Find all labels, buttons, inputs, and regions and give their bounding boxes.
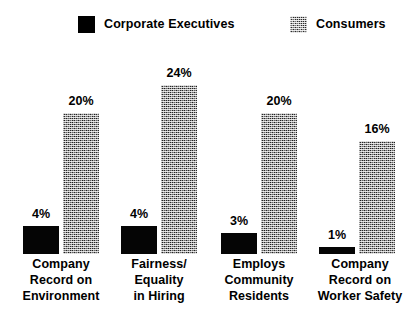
bar-group-fairness-equality-in-hiring: 4% 24% — [112, 52, 206, 254]
bar-value-executives-1: 4% — [130, 208, 148, 221]
bar-consumers-1 — [161, 85, 197, 254]
bar-value-executives-2: 3% — [230, 215, 248, 228]
plot-area: 4% 20% 4% 24% 3% — [0, 52, 416, 254]
chart-legend: Corporate Executives Consumers — [0, 14, 416, 38]
bar-value-executives-0: 4% — [32, 208, 50, 221]
bar-group-employs-community-residents: 3% 20% — [212, 52, 306, 254]
bar-value-consumers-0: 20% — [68, 95, 93, 108]
bar-executives-3 — [319, 247, 355, 254]
category-label-1: Fairness/ Equality in Hiring — [112, 256, 206, 304]
bar-consumers-2 — [261, 113, 297, 254]
legend-label-corporate-executives: Corporate Executives — [104, 18, 235, 31]
solid-black-swatch-icon — [78, 16, 95, 33]
bar-wrap-consumers-3: 16% — [359, 52, 395, 254]
bar-wrap-consumers-2: 20% — [261, 52, 297, 254]
bar-wrap-consumers-0: 20% — [63, 52, 99, 254]
bar-executives-1 — [121, 226, 157, 254]
bar-wrap-executives-2: 3% — [221, 52, 257, 254]
category-label-1-line-2: in Hiring — [112, 288, 206, 304]
category-label-0-line-1: Record on — [14, 272, 108, 288]
category-label-3-line-1: Record on — [310, 272, 410, 288]
bar-executives-2 — [221, 233, 257, 254]
bar-group-company-record-on-environment: 4% 20% — [14, 52, 108, 254]
bar-group-company-record-on-worker-safety: 1% 16% — [310, 52, 404, 254]
bar-value-consumers-1: 24% — [166, 67, 191, 80]
category-label-3-line-2: Worker Safety — [310, 288, 410, 304]
legend-item-consumers: Consumers — [290, 14, 386, 34]
dithered-gray-swatch-icon — [290, 16, 307, 33]
bar-wrap-consumers-1: 24% — [161, 52, 197, 254]
bar-wrap-executives-3: 1% — [319, 52, 355, 254]
bar-consumers-0 — [63, 113, 99, 254]
category-label-1-line-0: Fairness/ — [112, 256, 206, 272]
bar-value-consumers-3: 16% — [364, 123, 389, 136]
bar-executives-0 — [23, 226, 59, 254]
bar-wrap-executives-0: 4% — [23, 52, 59, 254]
category-label-2: Employs Community Residents — [212, 256, 306, 304]
bar-value-consumers-2: 20% — [266, 95, 291, 108]
category-label-2-line-0: Employs — [212, 256, 306, 272]
bar-wrap-executives-1: 4% — [121, 52, 157, 254]
category-label-3-line-0: Company — [310, 256, 410, 272]
category-label-0-line-0: Company — [14, 256, 108, 272]
category-axis-labels: Company Record on Environment Fairness/ … — [0, 256, 416, 332]
category-label-2-line-1: Community — [212, 272, 306, 288]
bar-chart: Corporate Executives Consumers 4% 20% 4% — [0, 0, 416, 332]
bar-consumers-3 — [359, 141, 395, 254]
legend-item-corporate-executives: Corporate Executives — [78, 14, 235, 34]
legend-label-consumers: Consumers — [316, 18, 386, 31]
category-label-0: Company Record on Environment — [14, 256, 108, 304]
category-label-1-line-1: Equality — [112, 272, 206, 288]
category-label-2-line-2: Residents — [212, 288, 306, 304]
category-label-3: Company Record on Worker Safety — [310, 256, 410, 304]
bar-value-executives-3: 1% — [328, 229, 346, 242]
category-label-0-line-2: Environment — [14, 288, 108, 304]
